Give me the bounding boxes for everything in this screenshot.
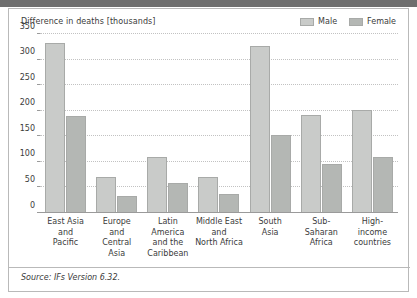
bar-pair: [142, 34, 193, 213]
bar-female[interactable]: [117, 196, 137, 213]
bar-group: [245, 34, 296, 213]
bar-pair: [245, 34, 296, 213]
x-axis-label-line: countries: [348, 238, 397, 249]
x-axis-label: East AsiaandPacific: [40, 217, 91, 259]
x-axis-label: Middle EastandNorth Africa: [193, 217, 244, 259]
x-axis-baseline: [40, 212, 398, 213]
y-axis-tick-label: 350: [20, 21, 35, 30]
bar-group: [142, 34, 193, 213]
y-axis-tick-label: 300: [20, 47, 35, 56]
x-axis-label: SouthAsia: [245, 217, 296, 259]
y-axis-tick-label: 50: [25, 174, 35, 183]
source-divider: [9, 267, 410, 268]
y-axis-tick-label: 150: [20, 123, 35, 132]
x-axis-label-line: Latin: [143, 217, 192, 228]
y-axis-tick-label: 200: [20, 98, 35, 107]
legend-swatch-female: [349, 18, 363, 26]
x-axis-label: EuropeandCentralAsia: [91, 217, 142, 259]
bar-male[interactable]: [301, 115, 321, 213]
window-title-bar: [0, 0, 417, 7]
chart-area: Difference in deaths [thousands] Male Fe…: [9, 9, 410, 267]
x-axis-label-line: Europe: [92, 217, 141, 228]
x-axis-label: LatinAmericaand theCaribbean: [142, 217, 193, 259]
x-axis-label-line: Middle East: [194, 217, 243, 228]
x-axis-label-line: and: [41, 228, 90, 239]
x-axis-label-line: Saharan: [297, 228, 346, 239]
bar-pair: [193, 34, 244, 213]
bar-male[interactable]: [198, 177, 218, 213]
x-axis-label: High-incomecountries: [347, 217, 398, 259]
bar-female[interactable]: [322, 164, 342, 213]
bar-male[interactable]: [352, 110, 372, 213]
bar-group: [193, 34, 244, 213]
legend-item-male[interactable]: Male: [300, 17, 337, 26]
bar-pair: [40, 34, 91, 213]
x-axis-label-line: America: [143, 228, 192, 239]
bar-group: [91, 34, 142, 213]
bar-female[interactable]: [219, 194, 239, 213]
legend-label-male: Male: [318, 17, 337, 26]
bar-female[interactable]: [66, 116, 86, 213]
x-axis-label-line: South: [246, 217, 295, 228]
bar-male[interactable]: [45, 43, 65, 213]
x-axis-label-line: East Asia: [41, 217, 90, 228]
x-axis-label-line: Asia: [92, 249, 141, 260]
x-axis-label-line: Pacific: [41, 238, 90, 249]
screenshot-root: Difference in deaths [thousands] Male Fe…: [0, 0, 417, 298]
bar-group: [40, 34, 91, 213]
bar-male[interactable]: [96, 177, 116, 213]
legend-swatch-male: [300, 18, 314, 26]
chart-legend: Male Female: [300, 17, 396, 26]
bar-pair: [296, 34, 347, 213]
legend-item-female[interactable]: Female: [349, 17, 396, 26]
x-axis-label-line: income: [348, 228, 397, 239]
source-note: Source: IFs Version 6.32.: [21, 273, 120, 282]
bar-female[interactable]: [373, 157, 393, 213]
y-axis-tick-label: 250: [20, 72, 35, 81]
bar-group: [296, 34, 347, 213]
y-axis-title: Difference in deaths [thousands]: [21, 17, 156, 26]
bar-male[interactable]: [147, 157, 167, 213]
x-axis-label-line: Sub-: [297, 217, 346, 228]
x-axis-label-line: Central: [92, 238, 141, 249]
x-axis-label-line: Africa: [297, 238, 346, 249]
x-axis-label-line: High-: [348, 217, 397, 228]
x-axis-label-line: Asia: [246, 228, 295, 239]
legend-label-female: Female: [367, 17, 396, 26]
y-axis-tick-label: 100: [20, 149, 35, 158]
bar-female[interactable]: [168, 183, 188, 213]
figure-frame: Difference in deaths [thousands] Male Fe…: [8, 8, 409, 292]
x-axis-label-line: and: [194, 228, 243, 239]
bar-male[interactable]: [250, 46, 270, 213]
y-axis-tick-label: 0: [30, 200, 35, 209]
bar-group: [347, 34, 398, 213]
plot-region: 050100150200250300350: [40, 34, 398, 213]
bar-pair: [91, 34, 142, 213]
x-axis-labels: East AsiaandPacificEuropeandCentralAsiaL…: [40, 217, 398, 259]
x-axis-label: Sub-SaharanAfrica: [296, 217, 347, 259]
bar-female[interactable]: [271, 135, 291, 213]
bar-groups: [40, 34, 398, 213]
x-axis-label-line: North Africa: [194, 238, 243, 249]
x-axis-label-line: Caribbean: [143, 249, 192, 260]
x-axis-label-line: and the: [143, 238, 192, 249]
x-axis-label-line: and: [92, 228, 141, 239]
bar-pair: [347, 34, 398, 213]
